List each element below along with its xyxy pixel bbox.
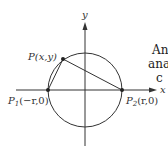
y-axis-label: y xyxy=(81,9,88,20)
circle-diagram: y x P(x,y) P1(−r,0) P2(r,0) xyxy=(0,0,168,146)
point-p2 xyxy=(120,88,124,92)
point-p1 xyxy=(46,88,50,92)
side-text-line-3: c xyxy=(156,71,163,85)
y-axis-arrow-icon xyxy=(83,22,88,30)
chord-p-p2 xyxy=(63,59,122,90)
x-axis-label: x xyxy=(160,84,166,95)
side-text-line-1: An xyxy=(152,43,168,57)
point-p-label: P(x,y) xyxy=(27,51,57,62)
point-p xyxy=(61,57,65,61)
chord-p-p1 xyxy=(48,59,63,90)
x-axis-arrow-icon xyxy=(149,88,157,93)
side-text-line-2: ana xyxy=(148,57,168,71)
point-p1-label: P1(−r,0) xyxy=(7,95,49,108)
point-p2-label: P2(r,0) xyxy=(125,95,158,108)
